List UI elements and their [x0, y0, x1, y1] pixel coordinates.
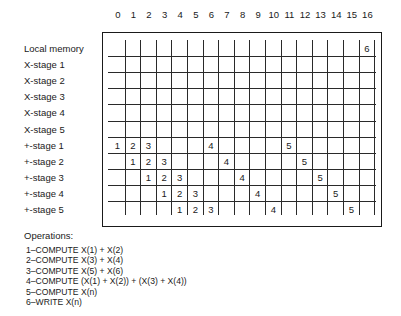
column-header: 0 — [110, 9, 126, 20]
operation-cell: 2 — [142, 156, 156, 168]
operation-item: 6–WRITE X(n) — [26, 297, 187, 307]
column-header: 5 — [188, 9, 204, 20]
row-label: +-stage 4 — [24, 188, 64, 200]
grid-vertical-line — [140, 40, 141, 215]
row-label: +-stage 2 — [24, 156, 64, 168]
column-header: 3 — [157, 9, 173, 20]
operation-cell: 5 — [298, 156, 312, 168]
operation-cell: 4 — [235, 172, 249, 184]
column-header: 10 — [266, 9, 282, 20]
operation-cell: 3 — [204, 204, 218, 216]
operation-cell: 1 — [110, 140, 124, 152]
row-label: X-stage 4 — [24, 107, 65, 119]
operation-cell: 3 — [157, 156, 171, 168]
grid-vertical-line — [171, 40, 172, 215]
column-header: 15 — [344, 9, 360, 20]
operation-cell: 2 — [173, 188, 187, 200]
grid-vertical-line — [125, 40, 126, 215]
operation-cell: 4 — [204, 140, 218, 152]
operation-cell: 4 — [251, 188, 265, 200]
operation-cell: 3 — [142, 140, 156, 152]
column-header: 2 — [141, 9, 157, 20]
operation-cell: 2 — [157, 172, 171, 184]
grid-vertical-line — [374, 40, 375, 215]
grid-vertical-line — [327, 40, 328, 215]
grid-horizontal-line — [108, 121, 376, 122]
operation-cell: 2 — [126, 140, 140, 152]
grid-vertical-line — [265, 40, 266, 215]
operation-item: 2–COMPUTE X(3) + X(4) — [26, 255, 187, 265]
column-header: 6 — [203, 9, 219, 20]
column-header: 1 — [125, 9, 141, 20]
grid-vertical-line — [156, 40, 157, 215]
operation-cell: 4 — [220, 156, 234, 168]
operation-cell: 5 — [329, 188, 343, 200]
grid-horizontal-line — [108, 72, 376, 73]
grid-vertical-line — [359, 40, 360, 215]
row-label: +-stage 3 — [24, 172, 64, 184]
grid-horizontal-line — [108, 56, 376, 57]
grid-horizontal-line — [108, 185, 376, 186]
grid-vertical-line — [234, 40, 235, 215]
operation-cell: 4 — [266, 204, 280, 216]
grid-horizontal-line — [108, 137, 376, 138]
row-label: Local memory — [24, 43, 84, 55]
grid-vertical-line — [281, 40, 282, 215]
operation-cell: 3 — [188, 188, 202, 200]
operation-cell: 1 — [126, 156, 140, 168]
operation-cell: 2 — [188, 204, 202, 216]
grid-vertical-line — [187, 40, 188, 215]
column-header: 13 — [313, 9, 329, 20]
grid-vertical-line — [312, 40, 313, 215]
column-header: 7 — [219, 9, 235, 20]
column-header: 11 — [281, 9, 297, 20]
operation-item: 4–COMPUTE (X(1) + X(2)) + (X(3) + X(4)) — [26, 276, 187, 286]
grid-horizontal-line — [108, 169, 376, 170]
grid-horizontal-line — [108, 88, 376, 89]
grid-horizontal-line — [108, 104, 376, 105]
row-label: +-stage 5 — [24, 204, 64, 216]
operation-item: 3–COMPUTE X(5) + X(6) — [26, 266, 187, 276]
column-header: 8 — [235, 9, 251, 20]
grid-vertical-line — [296, 40, 297, 215]
operation-cell: 3 — [173, 172, 187, 184]
operations-list: 1–COMPUTE X(1) + X(2) 2–COMPUTE X(3) + X… — [26, 245, 187, 307]
operation-cell: 1 — [157, 188, 171, 200]
grid-vertical-line — [343, 40, 344, 215]
grid-horizontal-line — [108, 201, 376, 202]
grid-horizontal-line — [108, 153, 376, 154]
operation-cell: 6 — [360, 43, 374, 55]
column-header: 4 — [172, 9, 188, 20]
column-header: 14 — [328, 9, 344, 20]
row-label: X-stage 2 — [24, 75, 65, 87]
operation-cell: 5 — [344, 204, 358, 216]
grid-vertical-line — [249, 40, 250, 215]
row-label: X-stage 5 — [24, 124, 65, 136]
operation-cell: 1 — [142, 172, 156, 184]
row-label: +-stage 1 — [24, 140, 64, 152]
operation-item: 5–COMPUTE X(n) — [26, 287, 187, 297]
row-label: X-stage 1 — [24, 59, 65, 71]
operation-item: 1–COMPUTE X(1) + X(2) — [26, 245, 187, 255]
operation-cell: 5 — [313, 172, 327, 184]
operation-cell: 1 — [173, 204, 187, 216]
operation-cell: 5 — [282, 140, 296, 152]
grid-vertical-line — [218, 40, 219, 215]
column-header: 16 — [359, 9, 375, 20]
column-header: 9 — [250, 9, 266, 20]
operations-title: Operations: — [24, 230, 73, 241]
row-label: X-stage 3 — [24, 91, 65, 103]
grid-vertical-line — [203, 40, 204, 215]
column-header: 12 — [297, 9, 313, 20]
